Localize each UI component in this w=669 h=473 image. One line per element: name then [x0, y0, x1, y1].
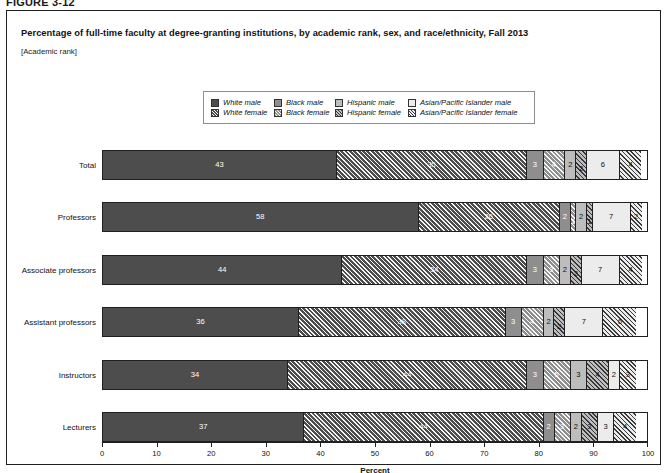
legend-item-label: White male — [223, 98, 261, 107]
asian-pacific-islander-female-swatch — [408, 109, 416, 117]
legend-item-label: Asian/Pacific Islander male — [420, 98, 511, 107]
bar-segment: 2 — [560, 203, 571, 231]
bar-segment: 43 — [103, 151, 337, 179]
bar-segment: 34 — [342, 256, 527, 284]
asian-pacific-islander-male-swatch — [408, 99, 416, 107]
bar-segment: 3 — [527, 256, 543, 284]
bar-row: Lecturers3744232334 — [102, 412, 648, 442]
legend-item-label: White female — [223, 108, 267, 117]
bar-segment: 5 — [544, 361, 571, 389]
legend-item: Asian/Pacific Islander male — [408, 98, 526, 107]
bar-segment: 6 — [603, 308, 636, 336]
bar-value-label: 3 — [527, 161, 542, 169]
bar-segment: 2 — [560, 256, 571, 284]
chart-legend: White maleBlack maleHispanic maleAsian/P… — [203, 91, 535, 124]
bar-segment: 3 — [620, 361, 636, 389]
legend-item: Hispanic female — [335, 108, 399, 117]
white-male-swatch — [211, 99, 219, 107]
bar-value-label: 3 — [506, 318, 521, 326]
bar-segment: 37 — [103, 413, 304, 441]
bar-segment: 4 — [522, 308, 544, 336]
figure-panel: Percentage of full-time faculty at degre… — [6, 10, 661, 465]
legend-item-label: Black female — [286, 108, 329, 117]
y-axis-category-label: Assistant professors — [24, 318, 96, 327]
bar-value-label: 3 — [582, 423, 597, 431]
bar-segment: 7 — [582, 256, 620, 284]
bar-value-label: 44 — [288, 371, 526, 379]
bar-segment: 3 — [527, 361, 543, 389]
bar-segment: 2 — [609, 361, 620, 389]
legend-item: White male — [211, 98, 265, 107]
x-axis-tick — [430, 442, 431, 447]
x-axis-tick-label: 30 — [262, 449, 270, 458]
x-axis-tick — [375, 442, 376, 447]
bar-segment: 3 — [571, 361, 587, 389]
black-male-swatch — [274, 99, 282, 107]
bar-value-label: 2 — [544, 423, 554, 431]
legend-item: Black female — [274, 108, 326, 117]
y-axis-category-label: Associate professors — [22, 265, 96, 274]
hispanic-male-swatch — [335, 99, 343, 107]
x-axis-tick — [593, 442, 594, 447]
bar-segment: 3 — [555, 413, 571, 441]
x-axis-tick-label: 100 — [642, 449, 655, 458]
bar-value-label: 1 — [571, 218, 575, 226]
bar-segment: 2 — [576, 151, 587, 179]
bar-value-label: 4 — [614, 423, 636, 431]
bar-row: Professors5826212172 — [102, 202, 648, 232]
legend-row: White maleBlack maleHispanic maleAsian/P… — [211, 98, 526, 107]
x-axis-title: Percent — [102, 466, 648, 473]
bar-value-label: 58 — [103, 214, 418, 222]
y-axis-category-label: Professors — [58, 213, 96, 222]
x-axis-tick — [647, 442, 648, 447]
x-axis-tick — [484, 442, 485, 447]
bar-segment: 7 — [565, 308, 603, 336]
legend-row: White femaleBlack femaleHispanic femaleA… — [211, 108, 526, 117]
bar-value-label: 38 — [299, 318, 505, 326]
bar-value-label: 4 — [544, 161, 565, 169]
bar-segment: 58 — [103, 203, 419, 231]
bar-row: Instructors3444353423 — [102, 360, 648, 390]
bar-segment: 7 — [593, 203, 631, 231]
black-female-swatch — [274, 109, 282, 117]
bar-value-label: 6 — [603, 318, 636, 326]
bar-segment: 6 — [587, 151, 620, 179]
bar-value-label: 3 — [544, 266, 559, 274]
bar-value-label: 7 — [565, 318, 602, 326]
bar-value-label: 35 — [337, 161, 526, 169]
legend-item: Black male — [274, 98, 326, 107]
bar-segment: 4 — [544, 151, 566, 179]
x-axis-tick — [320, 442, 321, 447]
bar-segment: 2 — [571, 413, 582, 441]
x-axis-tick-label: 60 — [425, 449, 433, 458]
y-axis-category-label: Instructors — [59, 370, 96, 379]
hispanic-female-swatch — [335, 109, 343, 117]
bar-value-label: 3 — [571, 371, 586, 379]
bar-row: Associate professors4434332274 — [102, 255, 648, 285]
bar-segment: 2 — [565, 151, 576, 179]
figure-label: FIGURE 3-12 — [6, 0, 75, 8]
bar-value-label: 3 — [527, 266, 542, 274]
y-axis-category-label: Lecturers — [63, 423, 96, 432]
bar-value-label: 7 — [593, 214, 630, 222]
bar-segment: 4 — [587, 361, 609, 389]
x-axis-tick-label: 90 — [589, 449, 597, 458]
x-axis-tick — [266, 442, 267, 447]
bar-value-label: 2 — [554, 323, 564, 331]
bar-value-label: 34 — [103, 371, 287, 379]
bar-value-label: 2 — [571, 423, 581, 431]
figure-subtitle: [Academic rank] — [21, 47, 77, 56]
bar-segment: 2 — [544, 413, 555, 441]
bar-value-label: 34 — [342, 266, 526, 274]
bar-segment: 34 — [103, 361, 288, 389]
bar-segment: 26 — [419, 203, 560, 231]
bar-value-label: 37 — [103, 423, 303, 431]
bar-segment: 4 — [614, 413, 636, 441]
white-female-swatch — [211, 109, 219, 117]
x-axis-tick-label: 0 — [100, 449, 104, 458]
bar-segment: 4 — [620, 151, 642, 179]
y-axis-category-label: Total — [79, 161, 96, 170]
x-axis-tick — [102, 442, 103, 447]
bar-segment: 3 — [506, 308, 522, 336]
bar-segment: 44 — [288, 361, 527, 389]
